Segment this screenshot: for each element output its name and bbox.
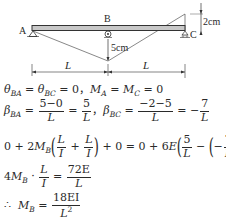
roller-support-c-icon (182, 31, 188, 35)
equation-boundary-conditions: θBA = θBC = 0，MA = MC = 0 (4, 84, 163, 98)
support-b-center (107, 33, 109, 35)
label-c: C (190, 29, 197, 40)
label-5cm: 5cm (111, 42, 128, 53)
equation-result: ∴ MB = 18EIL2 (4, 192, 81, 220)
label-a: A (19, 25, 27, 36)
label-span-ab: L (64, 59, 71, 71)
beam (32, 26, 185, 31)
label-2cm: 2cm (203, 16, 220, 27)
equation-simplified: 4MB · LI = 72EL (4, 164, 92, 190)
label-b: B (104, 13, 111, 24)
beam-settlement-diagram: A B C 2cm 5cm L L (0, 0, 226, 82)
equation-chord-rotations: βBA = 5−0L = 5L，βBC = −2−5L = −7L (4, 98, 210, 124)
equation-three-moment: 0 + 2MB(LI + LI) + 0 = 0 + 6E(5L − (−7L)… (4, 134, 226, 160)
label-span-bc: L (142, 59, 149, 71)
